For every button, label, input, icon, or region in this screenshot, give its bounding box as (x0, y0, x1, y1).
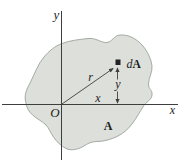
dA-label-A: A (133, 58, 142, 70)
area-shape (25, 35, 152, 150)
dA-element-square (116, 60, 121, 66)
x-coordinate-label: x (94, 91, 101, 105)
y-axis-label: y (52, 7, 60, 22)
y-coordinate-label: y (114, 77, 121, 91)
figure-canvas: y x O r x y d A A (0, 0, 186, 164)
r-label: r (88, 70, 93, 84)
x-axis-label: x (169, 103, 176, 117)
area-diagram: y x O r x y d A A (0, 0, 186, 164)
area-label: A (104, 119, 113, 133)
origin-label: O (50, 105, 60, 120)
